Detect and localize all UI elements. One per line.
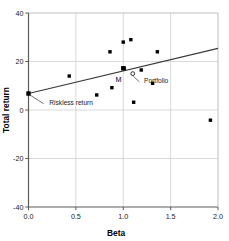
x-tick-label: 0.0: [24, 212, 34, 221]
data-point: [209, 118, 212, 121]
data-point: [129, 38, 132, 41]
riskless-return-annotation: Riskless return: [49, 99, 93, 106]
portfolio-annotation: Portfolio: [144, 77, 169, 84]
data-point: [132, 101, 135, 104]
y-tick-label: 20: [16, 57, 24, 66]
x-tick-label: 0.5: [71, 212, 81, 221]
market-portfolio-label: M: [116, 75, 122, 84]
y-tick-label: -40: [13, 203, 23, 212]
data-point: [156, 50, 159, 53]
data-point-market: [121, 66, 125, 70]
chart-background: [0, 0, 229, 241]
y-tick-label: -20: [13, 154, 23, 163]
data-point: [108, 50, 111, 53]
x-tick-label: 1.0: [118, 212, 128, 221]
data-point: [140, 68, 143, 71]
x-tick-label: 2.0: [213, 212, 223, 221]
data-point: [95, 93, 98, 96]
x-tick-label: 1.5: [166, 212, 176, 221]
y-tick-label: 40: [16, 9, 24, 18]
data-point-open-circle: [131, 72, 135, 76]
y-tick-label: 0: [20, 106, 24, 115]
x-axis-title: Beta: [107, 228, 125, 238]
scatter-chart: 0.00.51.01.52.040200-20-40 Riskless retu…: [0, 0, 229, 241]
data-point: [110, 86, 113, 89]
chart-container: 0.00.51.01.52.040200-20-40 Riskless retu…: [0, 0, 229, 241]
data-point: [68, 74, 71, 77]
data-point: [122, 40, 125, 43]
y-axis-title: Total return: [1, 87, 11, 133]
